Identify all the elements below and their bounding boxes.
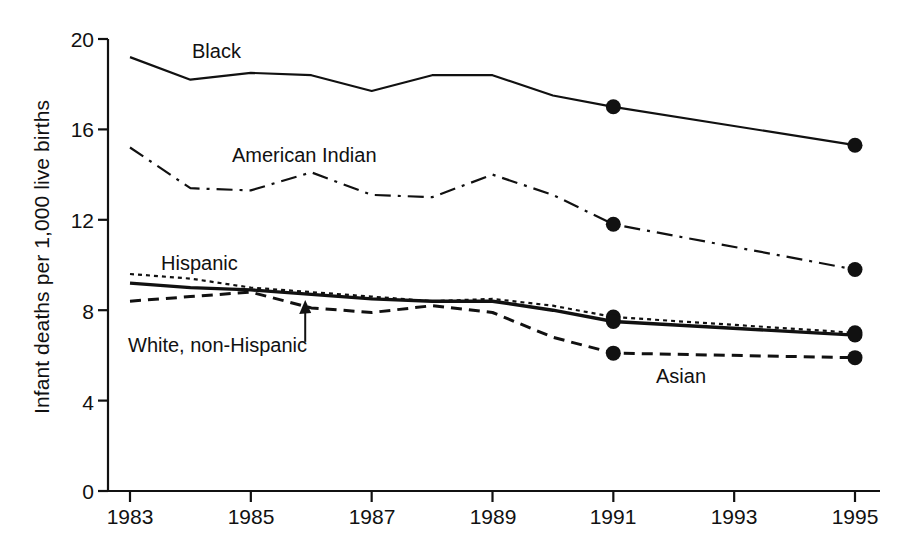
data-point-marker bbox=[606, 314, 621, 329]
data-point-marker bbox=[606, 217, 621, 232]
infant-mortality-line-chart: Infant deaths per 1,000 live births 20 1… bbox=[0, 0, 898, 550]
series-line-hispanic bbox=[130, 274, 855, 333]
data-point-marker bbox=[848, 350, 863, 365]
data-point-marker bbox=[848, 328, 863, 343]
axis-spine bbox=[108, 39, 880, 491]
data-point-marker bbox=[848, 138, 863, 153]
data-point-marker bbox=[848, 262, 863, 277]
series-line-white-non-hispanic bbox=[130, 283, 855, 335]
plot-area bbox=[0, 0, 898, 550]
series-line-black bbox=[130, 57, 855, 145]
series-line-american-indian bbox=[130, 148, 855, 270]
data-point-marker bbox=[606, 346, 621, 361]
data-point-marker bbox=[606, 99, 621, 114]
